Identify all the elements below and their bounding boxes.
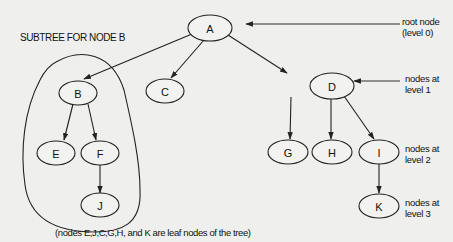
annotation-level3-line1: nodes at [405, 198, 439, 209]
svg-text:F: F [97, 148, 104, 160]
annotation-root-line1: root node [402, 17, 439, 28]
node-g: G [268, 140, 308, 164]
leaf-nodes-caption: (nodes E,J,C,G,H, and K are leaf nodes o… [55, 227, 251, 238]
node-a: A [188, 15, 232, 41]
svg-text:H: H [328, 147, 336, 159]
edge-b-e [64, 104, 73, 140]
node-b: B [59, 81, 97, 105]
node-c: C [146, 79, 184, 103]
edge-a-d [228, 35, 287, 73]
annotation-level1-line2: level 1 [405, 85, 439, 96]
annotation-level2-line2: level 2 [405, 155, 439, 166]
node-k: K [359, 194, 399, 218]
node-e: E [37, 141, 75, 165]
svg-text:C: C [161, 86, 169, 98]
node-i: I [359, 140, 399, 164]
annotation-level3: nodes at level 3 [405, 198, 439, 219]
annotation-level1-line1: nodes at [405, 74, 439, 85]
svg-text:G: G [284, 147, 293, 159]
node-j: J [81, 193, 119, 217]
annotation-level2-line1: nodes at [405, 144, 439, 155]
tree-diagram: A B C D E F G H [0, 0, 453, 242]
annotation-root: root node (level 0) [402, 17, 439, 38]
node-h: H [312, 140, 352, 164]
annotation-level1: nodes at level 1 [405, 74, 439, 95]
annotation-root-line2: (level 0) [402, 28, 439, 39]
edge-d-i [344, 96, 374, 139]
annotation-level3-line2: level 3 [405, 209, 439, 220]
edge-d-g [290, 97, 291, 139]
svg-text:E: E [52, 148, 59, 160]
svg-text:I: I [377, 147, 380, 159]
node-f: F [81, 141, 119, 165]
edge-b-f [88, 104, 96, 140]
svg-text:J: J [97, 200, 103, 212]
annotation-level2: nodes at level 2 [405, 144, 439, 165]
subtree-title: SUBTREE FOR NODE B [20, 32, 125, 43]
edges [64, 34, 379, 193]
svg-text:A: A [206, 23, 214, 35]
svg-text:D: D [328, 81, 336, 93]
svg-text:K: K [375, 201, 383, 213]
annotation-pointers [246, 24, 400, 81]
node-d: D [310, 73, 354, 99]
edge-a-c [171, 40, 204, 78]
svg-text:B: B [74, 88, 81, 100]
